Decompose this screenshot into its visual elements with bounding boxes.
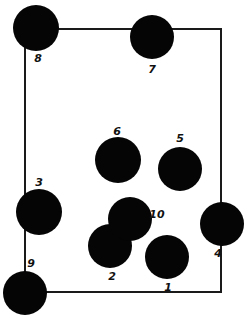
disc-4 [200,202,244,246]
disc-6 [95,137,141,183]
disc-label-1: 1 [164,282,172,293]
disc-label-4: 4 [214,248,222,259]
disc-7 [130,15,174,59]
disc-label-3: 3 [35,177,43,188]
disc-label-7: 7 [148,64,156,75]
diagram-canvas: 1 2 3 4 5 6 7 8 9 10 [0,0,247,324]
disc-label-6: 6 [113,126,121,137]
disc-label-5: 5 [176,133,184,144]
disc-10 [108,197,152,241]
disc-label-9: 9 [27,258,35,269]
disc-label-2: 2 [108,271,116,282]
disc-label-8: 8 [34,53,42,64]
disc-8 [13,5,59,51]
disc-1 [145,235,189,279]
disc-label-10: 10 [149,209,164,220]
disc-5 [158,147,202,191]
disc-9 [3,271,47,315]
disc-3 [16,189,62,235]
